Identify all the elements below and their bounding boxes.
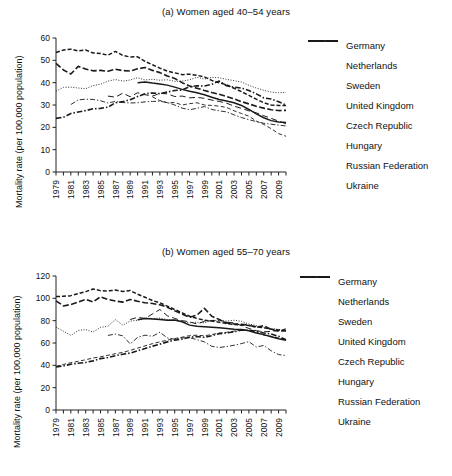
legend-swatch-icon <box>308 81 338 91</box>
svg-text:1983: 1983 <box>81 180 91 199</box>
legend-label: Sweden <box>346 81 380 91</box>
series-line <box>138 82 286 122</box>
svg-text:60: 60 <box>41 33 51 43</box>
svg-text:1985: 1985 <box>96 180 106 199</box>
series-line <box>56 49 286 105</box>
legend-item-russian-federation[interactable]: Russian Federation <box>308 156 428 176</box>
legend-swatch-icon <box>308 101 338 111</box>
svg-text:2005: 2005 <box>244 418 254 437</box>
series-line <box>56 77 286 92</box>
svg-text:80: 80 <box>41 316 51 326</box>
svg-text:10: 10 <box>41 145 51 155</box>
svg-text:30: 30 <box>41 100 51 110</box>
legend-label: Ukraine <box>346 181 379 191</box>
svg-text:1991: 1991 <box>140 180 150 199</box>
svg-text:1987: 1987 <box>111 180 121 199</box>
legend-label: Germany <box>346 41 385 51</box>
legend-label: Russian Federation <box>338 397 420 407</box>
legend-swatch-icon <box>308 181 338 191</box>
legend-swatch-icon <box>300 337 330 347</box>
svg-text:1997: 1997 <box>185 180 195 199</box>
svg-text:2003: 2003 <box>229 418 239 437</box>
svg-text:1993: 1993 <box>155 418 165 437</box>
legend-swatch-icon <box>308 141 338 151</box>
legend-item-hungary[interactable]: Hungary <box>300 372 420 392</box>
svg-text:100: 100 <box>36 293 50 303</box>
svg-text:1997: 1997 <box>185 418 195 437</box>
svg-text:60: 60 <box>41 338 51 348</box>
legend-item-hungary[interactable]: Hungary <box>308 136 428 156</box>
legend-item-czech-republic[interactable]: Czech Republic <box>308 116 428 136</box>
svg-text:1995: 1995 <box>170 180 180 199</box>
legend-item-russian-federation[interactable]: Russian Federation <box>300 392 420 412</box>
legend-swatch-icon <box>308 61 338 71</box>
legend-swatch-icon <box>300 357 330 367</box>
series-line <box>56 63 286 110</box>
legend-label: Russian Federation <box>346 161 428 171</box>
legend-label: United Kingdom <box>346 101 414 111</box>
chart-a-legend: GermanyNetherlandsSwedenUnited KingdomCz… <box>308 36 428 196</box>
svg-text:1979: 1979 <box>51 180 61 199</box>
legend-item-ukraine[interactable]: Ukraine <box>300 412 420 432</box>
legend-swatch-icon <box>308 161 338 171</box>
svg-text:1979: 1979 <box>51 418 61 437</box>
svg-text:0: 0 <box>45 405 50 415</box>
legend-item-ukraine[interactable]: Ukraine <box>308 176 428 196</box>
svg-text:1987: 1987 <box>111 418 121 437</box>
legend-item-sweden[interactable]: Sweden <box>308 76 428 96</box>
svg-text:2001: 2001 <box>214 180 224 199</box>
svg-text:1999: 1999 <box>200 180 210 199</box>
svg-text:1999: 1999 <box>200 418 210 437</box>
chart-b-legend: GermanyNetherlandsSwedenUnited KingdomCz… <box>300 272 420 432</box>
svg-text:40: 40 <box>41 360 51 370</box>
legend-label: Sweden <box>338 317 372 327</box>
svg-text:2009: 2009 <box>274 418 284 437</box>
svg-text:1981: 1981 <box>66 418 76 437</box>
svg-text:40: 40 <box>41 78 51 88</box>
legend-label: Hungary <box>346 141 382 151</box>
legend-item-united-kingdom[interactable]: United Kingdom <box>300 332 420 352</box>
svg-text:120: 120 <box>36 271 50 281</box>
svg-text:2003: 2003 <box>229 180 239 199</box>
svg-text:2009: 2009 <box>274 180 284 199</box>
legend-label: Netherlands <box>346 61 397 71</box>
legend-item-sweden[interactable]: Sweden <box>300 312 420 332</box>
legend-item-netherlands[interactable]: Netherlands <box>300 292 420 312</box>
legend-label: Ukraine <box>338 417 371 427</box>
series-line <box>56 297 286 331</box>
svg-text:1989: 1989 <box>125 180 135 199</box>
legend-swatch-icon <box>300 297 330 307</box>
legend-label: Czech Republic <box>346 121 413 131</box>
legend-swatch-icon <box>300 317 330 327</box>
chart-panel-b: (b) Women aged 55–70 years Mortality rat… <box>0 238 452 476</box>
legend-label: Czech Republic <box>338 357 405 367</box>
legend-label: Germany <box>338 277 377 287</box>
legend-swatch-icon <box>308 121 338 131</box>
svg-text:1993: 1993 <box>155 180 165 199</box>
svg-text:20: 20 <box>41 122 51 132</box>
svg-text:1991: 1991 <box>140 418 150 437</box>
legend-item-netherlands[interactable]: Netherlands <box>308 56 428 76</box>
legend-label: United Kingdom <box>338 337 406 347</box>
svg-text:1985: 1985 <box>96 418 106 437</box>
svg-text:2007: 2007 <box>259 180 269 199</box>
svg-text:1981: 1981 <box>66 180 76 199</box>
chart-panel-a: (a) Women aged 40–54 years Mortality rat… <box>0 0 452 238</box>
legend-item-united-kingdom[interactable]: United Kingdom <box>308 96 428 116</box>
svg-text:0: 0 <box>45 167 50 177</box>
legend-item-czech-republic[interactable]: Czech Republic <box>300 352 420 372</box>
legend-label: Hungary <box>338 377 374 387</box>
legend-swatch-icon <box>300 417 330 427</box>
legend-label: Netherlands <box>338 297 389 307</box>
svg-text:1995: 1995 <box>170 418 180 437</box>
svg-text:50: 50 <box>41 55 51 65</box>
svg-text:1989: 1989 <box>125 418 135 437</box>
legend-swatch-icon <box>300 377 330 387</box>
svg-text:20: 20 <box>41 383 51 393</box>
series-line <box>56 330 286 367</box>
svg-text:2005: 2005 <box>244 180 254 199</box>
svg-text:2007: 2007 <box>259 418 269 437</box>
legend-swatch-icon <box>300 397 330 407</box>
svg-text:2001: 2001 <box>214 418 224 437</box>
svg-text:1983: 1983 <box>81 418 91 437</box>
